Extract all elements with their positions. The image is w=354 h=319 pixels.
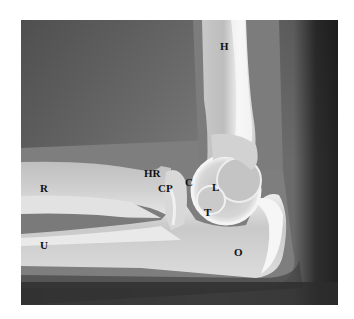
label-lateral-condyle: L — [212, 182, 219, 193]
label-head-of-radius: HR — [144, 168, 161, 179]
label-humerus: H — [220, 41, 229, 52]
xray-drawing — [21, 20, 338, 305]
label-ulna: U — [40, 240, 48, 251]
label-trochlea: T — [204, 207, 211, 218]
label-capitulum: C — [185, 177, 193, 188]
label-radius: R — [40, 183, 48, 194]
label-olecranon: O — [234, 247, 243, 258]
xray-image: H HR R CP C L T U O — [21, 20, 338, 305]
label-coronoid-process: CP — [158, 183, 173, 194]
